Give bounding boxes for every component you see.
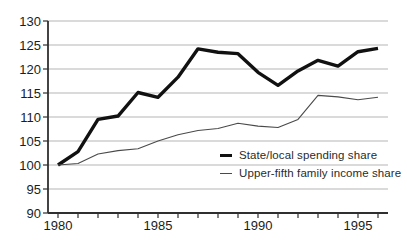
y-tick-label: 100: [19, 158, 41, 173]
x-tick-label: 1995: [344, 218, 373, 233]
x-tick-label: 1980: [44, 218, 73, 233]
y-tick-label: 105: [19, 134, 41, 149]
plot-area: 9095100105110115120125130198019851990199…: [0, 0, 407, 250]
thin-line-swatch: [220, 173, 232, 174]
y-tick-label: 110: [20, 110, 41, 125]
y-tick-label: 115: [20, 86, 41, 101]
y-tick-label: 95: [27, 182, 41, 197]
y-tick-label: 120: [19, 62, 41, 77]
y-tick-label: 125: [19, 38, 41, 53]
y-tick-label: 90: [27, 206, 41, 221]
thick-line-swatch: [220, 154, 232, 157]
legend: State/local spending share Upper-fifth f…: [220, 146, 401, 182]
legend-item-spending-share: State/local spending share: [220, 146, 401, 164]
y-tick-label: 130: [19, 14, 41, 29]
legend-label-income-share: Upper-fifth family income share: [239, 167, 401, 179]
x-tick-label: 1985: [144, 218, 173, 233]
legend-item-income-share: Upper-fifth family income share: [220, 164, 401, 182]
legend-label-spending-share: State/local spending share: [239, 149, 377, 161]
line-chart: 9095100105110115120125130198019851990199…: [0, 0, 407, 250]
x-tick-label: 1990: [244, 218, 273, 233]
